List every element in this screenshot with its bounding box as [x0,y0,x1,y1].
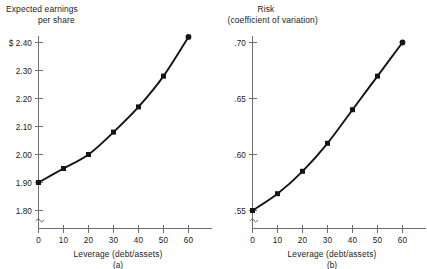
figure-container: Expected earnings per share $ 2.40 2.30 … [0,0,427,269]
chart-a-xtick-label-6: 60 [184,236,194,245]
chart-b-axis-break-icon [249,219,258,223]
data-point [86,152,91,157]
data-point [36,180,41,185]
data-point [300,169,305,174]
chart-b-line [252,43,402,211]
chart-b-ytick-label-3: .70 [234,39,246,48]
chart-a-axis-break-icon [36,219,45,223]
chart-a-ytick-label-6: $ 2.40 [9,39,33,48]
chart-a-xtick-label-1: 10 [59,236,69,245]
data-point [186,34,192,40]
chart-a-xtick-label-4: 40 [134,236,144,245]
chart-a-ytick-label-3: 2.10 [16,123,33,132]
chart-b-plot: .70 .65 .60 .55 0 10 20 30 40 50 60 Leve… [214,0,427,269]
chart-a-ytick-label-0: 1.80 [16,207,33,216]
chart-b-series [250,40,405,213]
data-point [250,208,255,213]
data-point [161,74,166,79]
chart-b-caption: (b) [326,261,336,269]
data-point [275,191,280,196]
data-point [350,107,355,112]
chart-b-xtick-label-3: 30 [322,236,332,245]
chart-panel-b: Risk (coefficient of variation) .70 .65 … [214,0,427,269]
chart-b-xtick-label-1: 10 [272,236,282,245]
chart-a-ytick-label-4: 2.20 [16,95,33,104]
chart-a-line [39,37,189,183]
data-point [111,130,116,135]
chart-a-series [36,34,191,185]
data-point [325,141,330,146]
chart-b-ytick-label-1: .60 [234,151,246,160]
chart-b-ytick-label-2: .65 [234,95,246,104]
chart-a-markers [36,34,191,185]
chart-a-ytick-label-2: 2.00 [16,151,33,160]
data-point [61,166,66,171]
chart-b-xtick-label-4: 40 [347,236,357,245]
chart-a-x-label: Leverage (debt/assets) [74,249,163,259]
chart-a-xtick-label-2: 20 [84,236,94,245]
chart-a-xtick-label-0: 0 [36,236,41,245]
chart-panel-a: Expected earnings per share $ 2.40 2.30 … [0,0,214,269]
chart-a-plot: $ 2.40 2.30 2.20 2.10 2.00 1.90 1.80 0 1… [0,0,214,269]
chart-a-ytick-label-5: 2.30 [16,67,33,76]
data-point [375,74,380,79]
chart-b-ytick-label-0: .55 [234,207,246,216]
data-point [399,40,405,46]
chart-b-markers [250,40,405,213]
chart-b-xtick-label-5: 50 [372,236,382,245]
chart-a-ytick-label-1: 1.90 [16,179,33,188]
chart-b-x-label: Leverage (debt/assets) [287,249,376,259]
chart-a-caption: (a) [113,261,123,269]
data-point [136,104,141,109]
chart-b-xtick-label-0: 0 [250,236,255,245]
chart-a-xtick-label-5: 50 [159,236,169,245]
chart-a-xtick-label-3: 30 [109,236,119,245]
chart-b-xtick-label-2: 20 [297,236,307,245]
chart-b-xtick-label-6: 60 [397,236,407,245]
